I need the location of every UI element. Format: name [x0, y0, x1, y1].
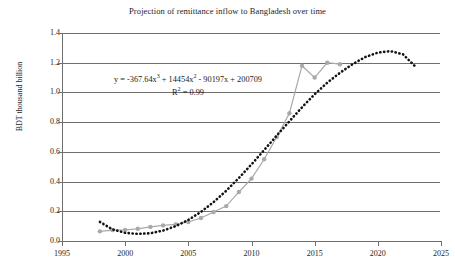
data-point-marker: [161, 223, 165, 227]
series-line-1: [100, 51, 416, 234]
y-tick-mark: [58, 33, 63, 34]
data-point-marker: [148, 225, 152, 229]
y-tick-mark: [58, 122, 63, 123]
chart-figure: Projection of remittance inflow to Bangl…: [0, 0, 455, 270]
data-point-marker: [224, 204, 228, 208]
data-point-marker: [249, 176, 253, 180]
series-line-0: [100, 63, 340, 232]
y-tick-mark: [58, 182, 63, 183]
y-tick-mark: [58, 241, 63, 242]
y-tick-mark: [58, 152, 63, 153]
data-point-marker: [325, 61, 329, 65]
data-point-marker: [136, 227, 140, 231]
data-point-marker: [237, 190, 241, 194]
data-point-marker: [123, 228, 127, 232]
data-point-marker: [338, 62, 342, 66]
y-tick-mark: [58, 63, 63, 64]
data-point-marker: [262, 157, 266, 161]
data-point-marker: [287, 111, 291, 115]
y-tick-mark: [58, 211, 63, 212]
data-point-marker: [211, 210, 215, 214]
data-point-marker: [300, 63, 304, 67]
y-tick-mark: [58, 92, 63, 93]
data-point-marker: [199, 216, 203, 220]
data-series-layer: [0, 0, 455, 270]
data-point-marker: [312, 75, 316, 79]
data-point-marker: [98, 229, 102, 233]
